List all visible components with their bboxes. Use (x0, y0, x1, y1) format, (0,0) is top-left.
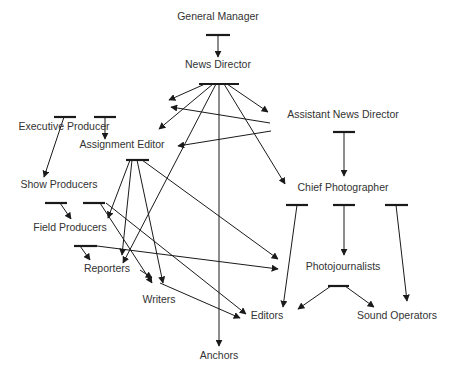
arrow-fp-to-rep (80, 246, 90, 260)
org-chart-diagram: General ManagerNews DirectorExecutive Pr… (0, 0, 458, 384)
arrow-ae-to-reporters (122, 160, 132, 255)
arrow-nd-to-reporters (123, 84, 216, 263)
node-and: Assistant News Director (287, 108, 398, 120)
arrow-pj-to-edi (298, 286, 331, 309)
arrow-nd-to-ae (159, 84, 213, 129)
node-wri: Writers (142, 293, 175, 305)
node-pj: Photojournalists (306, 260, 381, 272)
arrow-nd-to-and (227, 84, 268, 112)
arrow-ae-to-writers (137, 160, 163, 283)
node-anc: Anchors (200, 349, 239, 361)
arrow-pj-to-so (345, 286, 374, 307)
arrow-ae-to-editors (142, 160, 278, 259)
node-sp: Show Producers (20, 178, 97, 190)
node-so: Sound Operators (357, 309, 437, 321)
branch-bars (45, 35, 408, 286)
node-cp: Chief Photographer (297, 181, 388, 193)
node-gm: General Manager (177, 10, 259, 22)
arrow-sp-to-fp (60, 203, 71, 219)
arrow-and-to-nd-area (171, 107, 270, 123)
arrow-cp-to-so (396, 205, 407, 301)
arrow-nd-to-ep-area (169, 84, 205, 100)
arrow-cp-to-edi (283, 205, 297, 307)
node-ep: Executive Producer (18, 120, 109, 132)
arrow-sp-to-editors (106, 203, 246, 314)
node-fp: Field Producers (33, 221, 107, 233)
node-rep: Reporters (84, 262, 130, 274)
arrow-rep-to-wri (140, 270, 152, 278)
node-ae: Assignment Editor (79, 138, 164, 150)
node-edi: Editors (251, 309, 284, 321)
node-nd: News Director (185, 58, 251, 70)
